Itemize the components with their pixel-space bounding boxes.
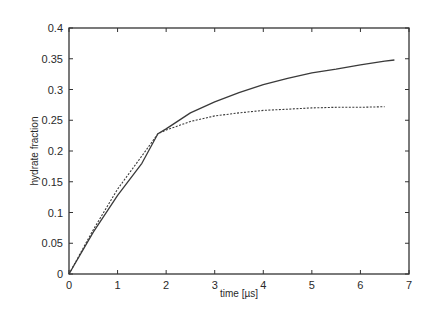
- x-tick-label: 1: [115, 279, 121, 291]
- y-tick-label: 0.25: [42, 114, 63, 126]
- y-tick-label: 0.1: [48, 207, 63, 219]
- x-tick-label: 3: [212, 279, 218, 291]
- y-axis-label: hydrate fraction: [29, 117, 40, 186]
- x-tick-label: 5: [309, 279, 315, 291]
- series-dashed: [69, 107, 385, 274]
- series-solid: [69, 60, 394, 274]
- y-tick-label: 0.3: [48, 84, 63, 96]
- x-tick-label: 7: [406, 279, 412, 291]
- y-tick-label: 0.15: [42, 176, 63, 188]
- y-tick-label: 0: [57, 268, 63, 280]
- x-tick-label: 0: [66, 279, 72, 291]
- y-tick-label: 0.2: [48, 145, 63, 157]
- x-tick-label: 6: [357, 279, 363, 291]
- x-tick-label: 2: [163, 279, 169, 291]
- x-tick-label: 4: [260, 279, 266, 291]
- data-series: [69, 60, 394, 274]
- y-tick-label: 0.05: [42, 237, 63, 249]
- axis-ticks: 0123456700.050.10.150.20.250.30.350.4: [42, 22, 412, 291]
- line-chart: 0123456700.050.10.150.20.250.30.350.4 ti…: [0, 0, 428, 320]
- y-tick-label: 0.35: [42, 53, 63, 65]
- y-tick-label: 0.4: [48, 22, 63, 34]
- x-axis-label: time [µs]: [220, 288, 258, 299]
